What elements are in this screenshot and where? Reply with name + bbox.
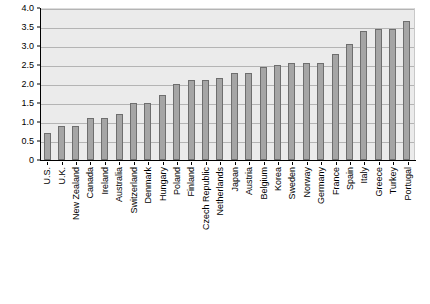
x-tick-slot: Spain [343,162,357,302]
y-axis-tick-label: 1.0 [21,118,34,127]
x-tick-slot: Denmark [141,162,155,302]
bar-slot [371,9,385,160]
x-tick-slot: France [328,162,342,302]
y-axis-tick-label: 0.5 [21,137,34,146]
x-tick-slot: Netherlands [213,162,227,302]
x-axis-tick-label: Switzerland [129,167,138,214]
x-tick-slot: Norway [300,162,314,302]
x-axis-tick-mark [177,162,178,165]
bar-slot [126,9,140,160]
x-axis-line [40,160,416,161]
x-axis-tick-label: New Zealand [72,167,81,220]
bar [274,65,281,160]
bar [288,63,295,160]
bar [231,73,238,160]
x-axis-tick-label: Japan [230,167,239,192]
y-axis-tick-label: 3.0 [21,42,34,51]
x-axis-tick-label: France [331,167,340,195]
y-axis-tick-mark [37,141,40,142]
x-tick-slot: Ireland [98,162,112,302]
x-tick-slot: Australia [112,162,126,302]
x-tick-slot: Germany [314,162,328,302]
x-axis-tick-label: Denmark [144,167,153,204]
x-tick-slot: Austria [242,162,256,302]
bar-slot [112,9,126,160]
y-axis-tick-label: 1.5 [21,99,34,108]
bar-slot [256,9,270,160]
x-axis-tick-mark [249,162,250,165]
bar [159,95,166,160]
x-axis-tick-label: Czech Republic [201,167,210,230]
bar-slot [40,9,54,160]
x-axis-tick-label: Korea [273,167,282,191]
x-tick-slot: Greece [372,162,386,302]
x-axis-tick-label: Portugal [403,167,412,201]
x-axis-tick-mark [191,162,192,165]
x-axis-tick-label: Turkey [389,167,398,194]
y-axis-tick-mark [37,27,40,28]
x-tick-slot: Japan [227,162,241,302]
x-axis-tick-label: Norway [302,167,311,198]
x-tick-slot: Switzerland [127,162,141,302]
bar-series [40,9,414,160]
bar-slot [299,9,313,160]
x-axis-tick-mark [321,162,322,165]
y-axis-tick-label: 2.0 [21,80,34,89]
bar-slot [155,9,169,160]
x-axis-tick-label: U.S. [43,167,52,185]
bar-slot [328,9,342,160]
y-axis-tick-label: 2.5 [21,61,34,70]
x-tick-slot: Canada [83,162,97,302]
x-axis-tick-mark [163,162,164,165]
x-axis-tick-label: Italy [360,167,369,184]
x-tick-slot: New Zealand [69,162,83,302]
x-axis-tick-mark [292,162,293,165]
bar-slot [270,9,284,160]
bar-slot [385,9,399,160]
bar [375,29,382,160]
x-axis-tick-label: U.K. [57,167,66,185]
bar [173,84,180,160]
x-axis-tick-label: Belgium [259,167,268,200]
bar [44,133,51,160]
bar [245,73,252,160]
x-tick-slot: Czech Republic [199,162,213,302]
x-tick-slot: Portugal [401,162,415,302]
bar [403,21,410,160]
y-axis-tick-mark [37,65,40,66]
x-axis-tick-label: Netherlands [216,167,225,216]
x-tick-slot: Hungary [155,162,169,302]
bar [144,103,151,160]
x-axis-tick-mark [336,162,337,165]
bar-slot [198,9,212,160]
bar [346,44,353,160]
bar-slot [357,9,371,160]
x-axis-tick-label: Ireland [100,167,109,195]
bar [303,63,310,160]
x-axis-tick-mark [264,162,265,165]
bar [389,29,396,160]
x-tick-slot: U.S. [40,162,54,302]
y-axis-tick-labels: 4.03.53.02.52.01.51.00.50 [0,0,37,304]
y-axis-tick-label: 3.5 [21,23,34,32]
x-axis-tick-label: Canada [86,167,95,199]
x-axis-tick-mark [148,162,149,165]
x-axis-tick-mark [364,162,365,165]
y-axis-line [40,8,41,161]
x-axis-tick-mark [408,162,409,165]
x-axis-tick-mark [278,162,279,165]
y-axis-tick-mark [37,84,40,85]
x-axis-tick-label: Finland [187,167,196,197]
x-tick-slot: Poland [170,162,184,302]
bar [260,67,267,160]
x-axis-tick-mark [393,162,394,165]
x-tick-slot: Turkey [386,162,400,302]
y-axis-tick-mark [37,103,40,104]
bar-slot [213,9,227,160]
x-axis-tick-mark [134,162,135,165]
x-axis-tick-mark [350,162,351,165]
x-tick-slot: Korea [271,162,285,302]
x-axis-tick-label: Germany [317,167,326,204]
x-axis-tick-mark [307,162,308,165]
bar-slot [141,9,155,160]
